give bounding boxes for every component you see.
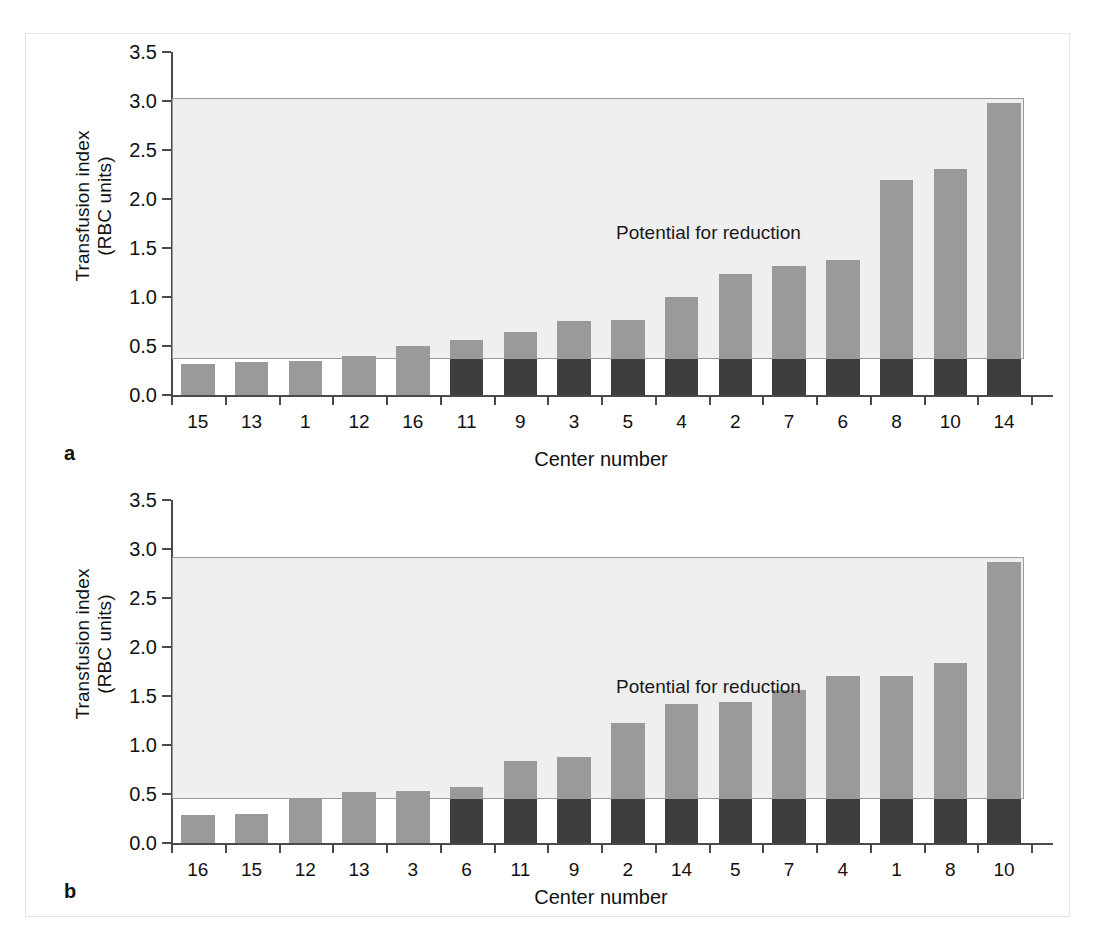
x-axis-tick-label: 9	[569, 859, 580, 881]
x-axis-tick	[601, 397, 603, 405]
bar-segment-benchmark	[987, 799, 1020, 843]
bar	[557, 321, 590, 395]
chart-panel-b: Transfusion index(RBC units) 0.00.51.01.…	[26, 482, 1071, 918]
x-axis-tick	[440, 397, 442, 405]
x-axis-tick-label: 8	[891, 411, 902, 433]
bar-segment-reduction	[396, 791, 429, 843]
x-axis-tick-label: 7	[784, 859, 795, 881]
x-axis-tick-label: 15	[241, 859, 262, 881]
bar-segment-benchmark	[450, 799, 483, 843]
panel-letter-b: b	[64, 880, 76, 903]
x-axis-tick-label: 7	[784, 411, 795, 433]
y-axis-title-b: Transfusion index(RBC units)	[72, 554, 116, 734]
y-axis-tick-label: 3.5	[129, 41, 157, 64]
bar-segment-benchmark	[665, 359, 698, 395]
bar-segment-benchmark	[611, 359, 644, 395]
bar-segment-reduction	[181, 364, 214, 395]
bar-segment-reduction	[396, 346, 429, 395]
y-axis-tick-label: 3.0	[129, 538, 157, 561]
bar	[772, 266, 805, 395]
y-axis-tick	[162, 842, 171, 844]
x-axis-tick	[279, 845, 281, 853]
x-axis-tick	[601, 845, 603, 853]
bar-segment-benchmark	[719, 799, 752, 843]
x-axis-tick	[816, 397, 818, 405]
y-axis-tick	[162, 695, 171, 697]
bar	[934, 169, 967, 395]
bar-segment-reduction	[450, 787, 483, 799]
bar	[504, 332, 537, 395]
y-axis-title-a: Transfusion index(RBC units)	[72, 116, 116, 296]
bar-segment-reduction	[772, 690, 805, 799]
bar-segment-reduction	[342, 792, 375, 843]
x-axis-tick-label: 13	[241, 411, 262, 433]
x-axis-tick-label: 14	[994, 411, 1015, 433]
x-axis-tick	[279, 397, 281, 405]
panel-letter-a: a	[64, 442, 75, 465]
bar	[235, 814, 268, 843]
x-axis-tick	[332, 845, 334, 853]
bar	[342, 356, 375, 395]
x-axis-tick-label: 1	[891, 859, 902, 881]
bar	[880, 180, 913, 395]
bar	[665, 704, 698, 843]
y-axis-tick	[162, 100, 171, 102]
x-axis-tick-label: 1	[300, 411, 311, 433]
x-axis-tick	[870, 397, 872, 405]
bar-segment-benchmark	[880, 799, 913, 843]
bar	[772, 690, 805, 843]
x-axis-tick-label: 10	[994, 859, 1015, 881]
bar-segment-benchmark	[987, 359, 1020, 395]
bar-segment-reduction	[504, 332, 537, 358]
bar-segment-reduction	[235, 814, 268, 843]
x-axis-tick-label: 5	[623, 411, 634, 433]
chart-panel-a: Transfusion index(RBC units) 0.00.51.01.…	[26, 34, 1071, 482]
x-axis-line	[171, 843, 1053, 845]
bar	[450, 787, 483, 843]
bar	[396, 791, 429, 843]
y-axis-tick-label: 1.5	[129, 237, 157, 260]
y-axis-tick	[162, 744, 171, 746]
y-axis-tick-label: 0.0	[129, 832, 157, 855]
x-axis-tick-label: 3	[408, 859, 419, 881]
x-axis-tick	[386, 845, 388, 853]
y-axis-tick	[162, 499, 171, 501]
x-axis-tick-label: 2	[730, 411, 741, 433]
x-axis-tick	[547, 845, 549, 853]
x-axis-tick-label: 16	[187, 859, 208, 881]
bar-segment-reduction	[934, 169, 967, 359]
x-axis-tick-label: 10	[940, 411, 961, 433]
bar-segment-reduction	[719, 274, 752, 358]
y-axis-title-line2-a: (RBC units)	[94, 156, 115, 255]
y-axis-tick	[162, 793, 171, 795]
bar-segment-reduction	[342, 356, 375, 395]
y-axis-tick-label: 0.5	[129, 783, 157, 806]
y-axis-tick	[162, 548, 171, 550]
x-axis-tick-label: 14	[671, 859, 692, 881]
bar	[611, 320, 644, 395]
bar-segment-reduction	[289, 799, 322, 843]
bar-segment-reduction	[557, 321, 590, 359]
x-axis-tick-label: 11	[457, 411, 477, 433]
bar	[181, 364, 214, 395]
bar-segment-reduction	[504, 761, 537, 799]
bar	[235, 362, 268, 395]
x-axis-tick	[762, 845, 764, 853]
bar-segment-benchmark	[557, 359, 590, 395]
bar	[826, 676, 859, 843]
bar-segment-reduction	[289, 361, 322, 395]
x-axis-tick-label: 16	[402, 411, 423, 433]
x-axis-tick	[816, 845, 818, 853]
bar-segment-benchmark	[772, 799, 805, 843]
bar-segment-benchmark	[665, 799, 698, 843]
y-axis-tick	[162, 597, 171, 599]
x-axis-tick	[225, 397, 227, 405]
x-axis-tick	[440, 845, 442, 853]
potential-for-reduction-label: Potential for reduction	[616, 676, 801, 698]
bar-segment-reduction	[450, 340, 483, 359]
bar-segment-reduction	[934, 663, 967, 799]
bar	[557, 757, 590, 843]
x-axis-tick	[655, 845, 657, 853]
x-axis-tick	[924, 397, 926, 405]
y-axis-tick	[162, 646, 171, 648]
